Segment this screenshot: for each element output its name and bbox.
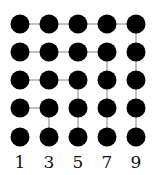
dot-node	[11, 71, 30, 90]
dot-node	[69, 43, 88, 62]
dot-node	[69, 99, 88, 118]
dot-node	[40, 99, 59, 118]
column-label-7: 7	[102, 152, 113, 172]
column-label-3: 3	[44, 152, 55, 172]
dot-node	[69, 15, 88, 34]
column-label-9: 9	[131, 152, 142, 172]
dot-node	[40, 71, 59, 90]
column-label-5: 5	[73, 152, 84, 172]
dot-node	[40, 15, 59, 34]
column-labels: 1 3 5 7 9	[15, 152, 142, 172]
dot-node	[127, 43, 146, 62]
dot-node	[40, 128, 59, 147]
dot-node	[11, 43, 30, 62]
dot-node	[11, 128, 30, 147]
dot-node	[69, 71, 88, 90]
dot-node	[98, 71, 117, 90]
dot-node	[127, 99, 146, 118]
dot-node	[127, 15, 146, 34]
dot-node	[98, 128, 117, 147]
dot-node	[98, 43, 117, 62]
dot-node	[40, 43, 59, 62]
column-label-1: 1	[15, 152, 26, 172]
dot-node	[69, 128, 88, 147]
dot-node	[98, 15, 117, 34]
dot-node	[127, 71, 146, 90]
dot-node	[11, 99, 30, 118]
dot-grid-diagram: 1 3 5 7 9	[0, 0, 156, 175]
dot-node	[98, 99, 117, 118]
dot-node	[127, 128, 146, 147]
dot-node	[11, 15, 30, 34]
